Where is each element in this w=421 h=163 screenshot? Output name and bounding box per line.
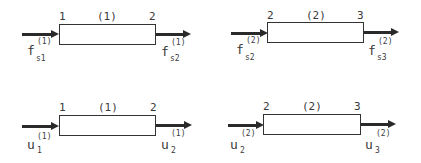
left-arrow-icon [228, 124, 257, 127]
left-displacement-symbol: u [230, 138, 238, 151]
node-right-label: 3 [354, 101, 361, 112]
node-left-label: 2 [263, 101, 270, 112]
right-displacement-symbol: u [365, 138, 373, 151]
left-displacement-subscript: 2 [240, 147, 245, 155]
right-displacement-superscript: (2) [376, 130, 390, 138]
element-label: (2) [302, 101, 322, 112]
left-displacement-superscript: (2) [241, 130, 255, 138]
bar-element [263, 114, 361, 135]
displacement-element-2-diagram: 2 (2) 3 u (2) 2 u (2) 3 [0, 0, 421, 163]
right-displacement-subscript: 3 [375, 147, 380, 155]
right-arrow-icon [361, 123, 389, 126]
